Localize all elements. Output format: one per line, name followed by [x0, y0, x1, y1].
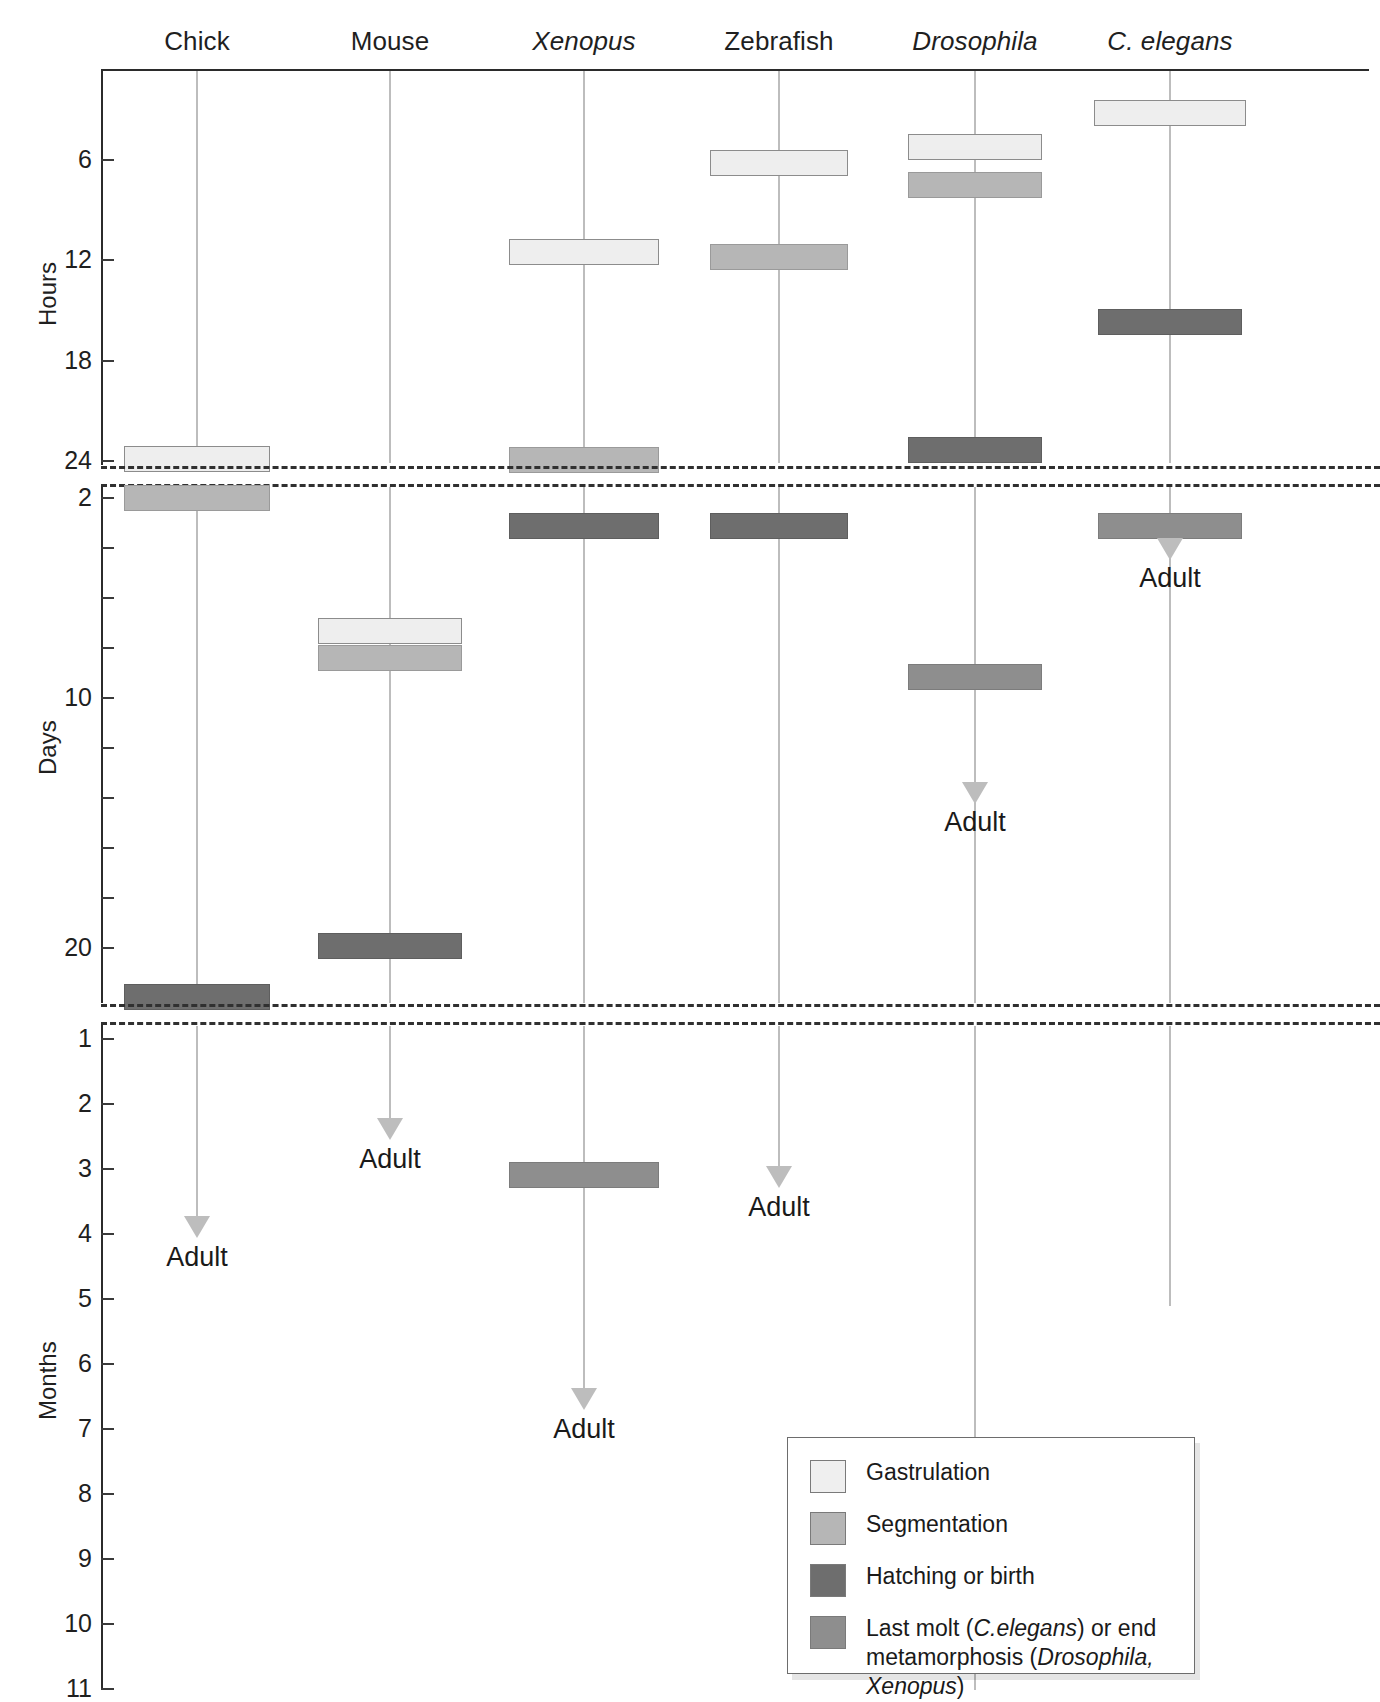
hours-tick-label-24: 24 [40, 446, 92, 475]
bar-xenopus-gastrulation[interactable] [509, 239, 659, 265]
months-tick-label-2: 2 [40, 1089, 92, 1118]
days-tick-label-10: 10 [40, 683, 92, 712]
guide-chick-hours [196, 71, 198, 463]
adult-label-drosophila: Adult [944, 807, 1006, 838]
bar-drosophila-gastrulation[interactable] [908, 134, 1042, 160]
bar-celegans-gastrulation[interactable] [1094, 100, 1246, 126]
adult-arrow-zebrafish [766, 1166, 792, 1188]
column-header-xenopus: Xenopus [532, 26, 635, 57]
days-tick-16 [101, 847, 114, 849]
months-tick-5 [101, 1298, 114, 1300]
column-header-mouse: Mouse [351, 26, 430, 57]
days-tick-2 [101, 497, 114, 499]
guide-mouse-months [389, 1026, 391, 1118]
guide-xenopus-months [583, 1026, 585, 1388]
months-axis-line [101, 1024, 103, 1690]
legend-swatch-lastmolt-icon [810, 1616, 846, 1649]
months-tick-label-9: 9 [40, 1544, 92, 1573]
legend-label-lastmolt: Last molt (C.elegans) or end metamorphos… [866, 1614, 1194, 1701]
column-header-drosophila: Drosophila [912, 26, 1037, 57]
top-axis-line [101, 69, 1369, 71]
bar-xenopus-metamorphosis[interactable] [509, 1162, 659, 1188]
bar-zebrafish-segmentation[interactable] [710, 244, 848, 270]
guide-drosophila-hours [974, 71, 976, 463]
column-header-celegans: C. elegans [1107, 26, 1232, 57]
days-axis-title: Days [34, 720, 62, 775]
legend-label-segmentation: Segmentation [866, 1510, 1008, 1539]
bar-zebrafish-gastrulation[interactable] [710, 150, 848, 176]
guide-mouse-days [389, 487, 391, 1003]
bar-xenopus-hatching[interactable] [509, 513, 659, 539]
bar-mouse-gastrulation[interactable] [318, 618, 462, 644]
panel-divider-days-months-upper [101, 1004, 1380, 1007]
adult-label-zebrafish: Adult [748, 1192, 810, 1223]
months-tick-label-8: 8 [40, 1479, 92, 1508]
panel-divider-days-months-lower [101, 1022, 1380, 1025]
days-tick-18 [101, 897, 114, 899]
guide-xenopus-days [583, 487, 585, 1003]
bar-chick-segmentation[interactable] [124, 485, 270, 511]
months-tick-label-10: 10 [36, 1609, 92, 1638]
months-tick-8 [101, 1493, 114, 1495]
months-axis-title: Months [34, 1341, 62, 1420]
bar-celegans-hatching[interactable] [1098, 309, 1242, 335]
adult-arrow-celegans [1157, 538, 1183, 560]
months-tick-1 [101, 1038, 114, 1040]
adult-label-xenopus: Adult [553, 1414, 615, 1445]
legend-item-lastmolt: Last molt (C.elegans) or end metamorphos… [810, 1614, 1194, 1701]
days-tick-8 [101, 647, 114, 649]
hours-axis-title: Hours [34, 262, 62, 326]
days-tick-label-2: 2 [40, 483, 92, 512]
guide-chick-months [196, 1026, 198, 1216]
guide-mouse-hours [389, 71, 391, 463]
bar-drosophila-metamorphosis[interactable] [908, 664, 1042, 690]
hours-tick-18 [101, 360, 114, 362]
legend-label-hatching: Hatching or birth [866, 1562, 1035, 1591]
days-tick-4 [101, 547, 114, 549]
hours-tick-label-6: 6 [40, 145, 92, 174]
legend-lastmolt-pre1: Last molt ( [866, 1615, 973, 1641]
days-tick-20 [101, 947, 114, 949]
legend-lastmolt-post2: ) [957, 1673, 965, 1699]
months-tick-label-11: 11 [36, 1674, 92, 1702]
legend-swatch-hatching-icon [810, 1564, 846, 1597]
hours-tick-24 [101, 460, 114, 462]
legend-item-gastrulation: Gastrulation [810, 1458, 1194, 1493]
months-tick-11 [101, 1688, 114, 1690]
guide-xenopus-hours [583, 71, 585, 463]
days-tick-label-20: 20 [40, 933, 92, 962]
days-tick-10 [101, 697, 114, 699]
bar-drosophila-hatching[interactable] [908, 437, 1042, 463]
chart-canvas: Chick Mouse Xenopus Zebrafish Drosophila… [0, 0, 1380, 1702]
adult-arrow-drosophila [962, 782, 988, 804]
guide-zebrafish-days [778, 487, 780, 1003]
hours-axis-line [101, 69, 103, 465]
bar-drosophila-segmentation[interactable] [908, 172, 1042, 198]
adult-label-celegans: Adult [1139, 563, 1201, 594]
adult-arrow-mouse [377, 1118, 403, 1140]
bar-zebrafish-hatching[interactable] [710, 513, 848, 539]
legend-swatch-gastrulation-icon [810, 1460, 846, 1493]
column-header-zebrafish: Zebrafish [724, 26, 833, 57]
legend-box: Gastrulation Segmentation Hatching or bi… [787, 1437, 1195, 1674]
guide-celegans-months [1169, 1026, 1171, 1306]
months-tick-label-4: 4 [40, 1219, 92, 1248]
column-header-chick: Chick [164, 26, 230, 57]
days-axis-line [101, 486, 103, 1003]
guide-chick-days [196, 487, 198, 1003]
hours-tick-label-18: 18 [40, 346, 92, 375]
months-tick-label-1: 1 [40, 1024, 92, 1053]
adult-arrow-xenopus [571, 1388, 597, 1410]
bar-celegans-lastmolt[interactable] [1098, 513, 1242, 539]
days-tick-6 [101, 597, 114, 599]
panel-divider-hours-days-upper [101, 466, 1380, 469]
adult-label-chick: Adult [166, 1242, 228, 1273]
bar-mouse-segmentation[interactable] [318, 645, 462, 671]
guide-celegans-hours [1169, 71, 1171, 463]
bar-xenopus-segmentation[interactable] [509, 447, 659, 473]
months-tick-6 [101, 1363, 114, 1365]
bar-mouse-birth[interactable] [318, 933, 462, 959]
legend-label-gastrulation: Gastrulation [866, 1458, 990, 1487]
months-tick-3 [101, 1168, 114, 1170]
guide-drosophila-days [974, 487, 976, 1003]
